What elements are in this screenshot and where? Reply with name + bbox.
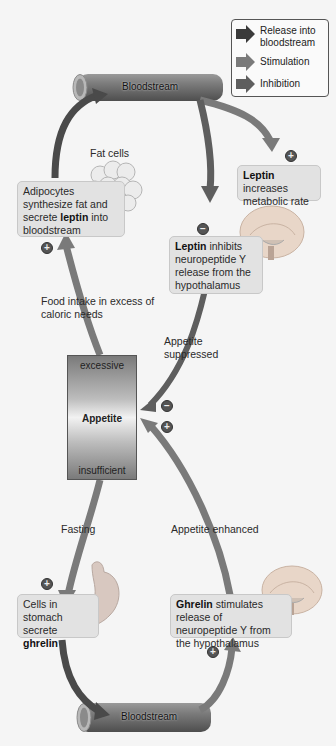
leptin-metabolic-box: Leptin increases metabolic rate bbox=[237, 165, 321, 201]
plus-icon: + bbox=[207, 646, 219, 658]
fasting-label: Fasting bbox=[61, 523, 95, 536]
plus-icon: + bbox=[285, 150, 297, 162]
leptin-inhibits-box: Leptin inhibits neuropeptide Y release f… bbox=[169, 236, 263, 294]
plus-icon: + bbox=[161, 421, 173, 433]
minus-icon: − bbox=[197, 223, 209, 235]
appetite-enhanced-label: Appetite enhanced bbox=[171, 523, 259, 536]
ghrelin-term: ghrelin bbox=[23, 637, 58, 649]
legend-label: Release into bloodstream bbox=[260, 25, 328, 49]
ghrelin-term: Ghrelin bbox=[176, 598, 213, 610]
stomach-text: Cells in stomach secrete bbox=[23, 598, 63, 636]
adipocytes-box: Adipocytes synthesize fat and secrete le… bbox=[17, 181, 125, 237]
legend-item-inhibition: Inhibition bbox=[236, 75, 300, 93]
arrow-right-icon bbox=[236, 75, 256, 93]
leptin-metabolic-text: increases metabolic rate bbox=[243, 182, 309, 207]
legend: Release into bloodstream Stimulation Inh… bbox=[231, 19, 329, 97]
legend-item-stimulation: Stimulation bbox=[236, 53, 309, 71]
arrow-right-icon bbox=[236, 25, 256, 43]
leptin-term: Leptin bbox=[175, 240, 207, 252]
appetite-suppressed-label: Appetite suppressed bbox=[164, 335, 224, 361]
legend-item-release: Release into bloodstream bbox=[236, 25, 328, 49]
appetite-scale: excessive Appetite insufficient bbox=[67, 355, 137, 480]
legend-label: Stimulation bbox=[260, 56, 309, 68]
fat-cells-label: Fat cells bbox=[90, 147, 129, 160]
plus-icon: + bbox=[41, 242, 53, 254]
appetite-insufficient-label: insufficient bbox=[68, 465, 136, 476]
plus-icon: + bbox=[41, 578, 53, 590]
top-vessel-label: Bloodstream bbox=[122, 81, 178, 92]
ghrelin-stimulates-box: Ghrelin stimulates release of neuropepti… bbox=[170, 594, 292, 638]
appetite-excessive-label: excessive bbox=[68, 360, 136, 371]
food-intake-label: Food intake in excess of caloric needs bbox=[41, 295, 161, 321]
bottom-vessel-label: Bloodstream bbox=[121, 711, 177, 722]
legend-label: Inhibition bbox=[260, 78, 300, 90]
minus-icon: − bbox=[161, 400, 173, 412]
stomach-box: Cells in stomach secrete ghrelin bbox=[17, 594, 99, 638]
appetite-label: Appetite bbox=[68, 413, 136, 424]
arrow-right-icon bbox=[236, 53, 256, 71]
leptin-term: Leptin bbox=[243, 169, 275, 181]
leptin-term: leptin bbox=[60, 211, 88, 223]
